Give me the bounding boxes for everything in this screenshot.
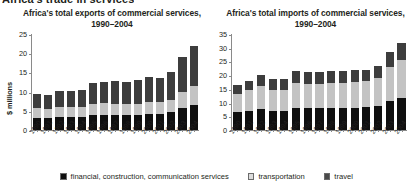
bar-slot[interactable]: 2004 — [188, 34, 198, 130]
bar-segment-travel[interactable] — [269, 79, 277, 90]
bar-segment-transportation[interactable] — [280, 90, 288, 111]
bar-segment-transportation[interactable] — [327, 83, 335, 108]
bar-segment-transportation[interactable] — [178, 92, 186, 108]
bar-segment-travel[interactable] — [351, 70, 359, 82]
bar-segment-travel[interactable] — [122, 82, 130, 105]
stacked-bar[interactable] — [397, 43, 405, 130]
bar-segment-transportation[interactable] — [190, 86, 198, 104]
bar-segment-travel[interactable] — [44, 95, 52, 109]
bar-slot[interactable]: 1997 — [314, 34, 325, 130]
bar-slot[interactable]: 1991 — [43, 34, 53, 130]
bar-segment-travel[interactable] — [374, 66, 382, 79]
bar-segment-transportation[interactable] — [292, 83, 300, 108]
bar-segment-transportation[interactable] — [374, 78, 382, 105]
stacked-bar[interactable] — [190, 46, 198, 130]
bar-slot[interactable]: 1995 — [88, 34, 98, 130]
bar-segment-transportation[interactable] — [233, 94, 241, 112]
bar-segment-transportation[interactable] — [89, 104, 97, 116]
bar-segment-travel[interactable] — [167, 72, 175, 99]
bar-slot[interactable]: 2001 — [361, 34, 372, 130]
bar-slot[interactable]: 1990 — [32, 34, 42, 130]
bar-segment-transportation[interactable] — [67, 107, 75, 117]
bar-slot[interactable]: 1994 — [279, 34, 290, 130]
bar-segment-transportation[interactable] — [386, 67, 394, 100]
bar-segment-travel[interactable] — [245, 81, 253, 91]
bar-segment-travel[interactable] — [78, 90, 86, 107]
bar-segment-travel[interactable] — [397, 43, 405, 60]
bar-segment-travel[interactable] — [178, 57, 186, 92]
bar-slot[interactable]: 1993 — [66, 34, 76, 130]
bar-segment-travel[interactable] — [257, 75, 265, 86]
bar-slot[interactable]: 1996 — [302, 34, 313, 130]
bar-segment-transportation[interactable] — [351, 82, 359, 108]
bar-slot[interactable]: 1994 — [77, 34, 87, 130]
bar-slot[interactable]: 1992 — [54, 34, 64, 130]
bar-segment-travel[interactable] — [386, 52, 394, 67]
bar-segment-transportation[interactable] — [269, 90, 277, 111]
bar-slot[interactable]: 1990 — [232, 34, 243, 130]
bar-segment-travel[interactable] — [55, 91, 63, 107]
bar-segment-transportation[interactable] — [78, 107, 86, 117]
legend-item-travel[interactable]: travel — [324, 172, 353, 181]
bar-segment-travel[interactable] — [327, 71, 335, 83]
bar-slot[interactable]: 1996 — [99, 34, 109, 130]
bar-slot[interactable]: 2000 — [144, 34, 154, 130]
bar-segment-transportation[interactable] — [304, 84, 312, 108]
bar-segment-transportation[interactable] — [397, 60, 405, 98]
bar-slot[interactable]: 1993 — [267, 34, 278, 130]
bar-segment-travel[interactable] — [304, 72, 312, 83]
bar-segment-transportation[interactable] — [339, 83, 347, 108]
y-tick-label: 0 — [23, 126, 27, 135]
bar-slot[interactable]: 1998 — [326, 34, 337, 130]
bar-slot[interactable]: 1999 — [133, 34, 143, 130]
bar-segment-travel[interactable] — [315, 72, 323, 84]
bar-slot[interactable]: 1997 — [110, 34, 120, 130]
bar-segment-travel[interactable] — [362, 70, 370, 82]
bar-segment-transportation[interactable] — [145, 102, 153, 114]
bar-segment-travel[interactable] — [145, 77, 153, 102]
bar-group-imports: 1990199119921993199419951996199719981999… — [232, 34, 407, 130]
bar-segment-travel[interactable] — [190, 46, 198, 87]
bar-segment-transportation[interactable] — [100, 103, 108, 115]
bar-segment-travel[interactable] — [111, 81, 119, 103]
bar-slot[interactable]: 1992 — [255, 34, 266, 130]
bar-segment-travel[interactable] — [339, 71, 347, 83]
bar-segment-travel[interactable] — [292, 71, 300, 83]
bar-slot[interactable]: 2002 — [373, 34, 384, 130]
bar-segment-transportation[interactable] — [44, 109, 52, 119]
bar-slot[interactable]: 1995 — [291, 34, 302, 130]
legend-item-transportation[interactable]: transportation — [248, 172, 305, 181]
legend-item-financial[interactable]: financial, construction, communication s… — [60, 172, 229, 181]
y-tick-mark — [29, 54, 32, 55]
bar-slot[interactable]: 2004 — [396, 34, 407, 130]
bar-slot[interactable]: 1998 — [121, 34, 131, 130]
x-tick-mark — [284, 130, 285, 132]
bar-slot[interactable]: 2001 — [155, 34, 165, 130]
bar-segment-transportation[interactable] — [245, 90, 253, 111]
bar-segment-travel[interactable] — [67, 91, 75, 107]
bar-segment-travel[interactable] — [33, 94, 41, 109]
bar-segment-transportation[interactable] — [111, 104, 119, 116]
bar-segment-travel[interactable] — [100, 82, 108, 103]
bar-segment-transportation[interactable] — [134, 104, 142, 115]
bar-segment-transportation[interactable] — [362, 81, 370, 107]
bar-segment-transportation[interactable] — [122, 104, 130, 115]
bar-segment-transportation[interactable] — [257, 86, 265, 109]
bar-segment-transportation[interactable] — [167, 100, 175, 113]
x-tick-mark — [261, 130, 262, 132]
bar-slot[interactable]: 1991 — [244, 34, 255, 130]
bar-slot[interactable]: 2003 — [177, 34, 187, 130]
bar-segment-travel[interactable] — [134, 80, 142, 104]
bar-segment-travel[interactable] — [156, 78, 164, 102]
bar-segment-travel[interactable] — [89, 83, 97, 103]
bar-segment-transportation[interactable] — [33, 108, 41, 118]
bar-slot[interactable]: 2000 — [349, 34, 360, 130]
bar-segment-travel[interactable] — [233, 85, 241, 94]
bar-slot[interactable]: 1999 — [337, 34, 348, 130]
bar-segment-transportation[interactable] — [315, 84, 323, 108]
bar-segment-transportation[interactable] — [55, 107, 63, 117]
bar-segment-travel[interactable] — [280, 79, 288, 89]
bar-slot[interactable]: 2003 — [384, 34, 395, 130]
bar-segment-transportation[interactable] — [156, 102, 164, 114]
bar-slot[interactable]: 2002 — [166, 34, 176, 130]
